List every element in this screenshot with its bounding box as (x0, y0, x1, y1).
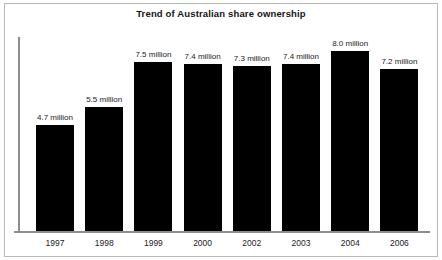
bar-value-label: 7.2 million (367, 57, 431, 67)
bar (282, 64, 320, 231)
plot-area: 4.7 million19975.5 million19987.5 millio… (0, 0, 442, 260)
bar-value-label: 8.0 million (318, 39, 382, 49)
chart-figure: Trend of Australian share ownership 4.7 … (0, 0, 442, 260)
bar-value-label: 5.5 million (72, 95, 136, 105)
x-axis-line (14, 231, 430, 233)
bar (380, 69, 418, 231)
bar (184, 64, 222, 231)
bar (134, 62, 172, 231)
y-axis-line (18, 37, 20, 233)
bar (233, 66, 271, 231)
bar (36, 125, 74, 231)
bar-value-label: 7.4 million (269, 52, 333, 62)
bar (331, 51, 369, 231)
bar (85, 107, 123, 231)
bar-value-label: 4.7 million (23, 113, 87, 123)
x-axis-tick-label: 2006 (367, 238, 431, 249)
